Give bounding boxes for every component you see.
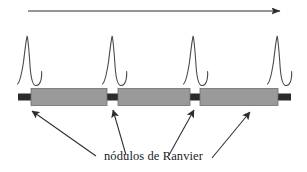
action-potential-spike-3 <box>184 36 208 86</box>
diagram-canvas <box>0 0 307 172</box>
nodes-of-ranvier-caption: nódulos de Ranvier <box>0 149 307 164</box>
myelin-sheath-3 <box>200 89 278 106</box>
myelin-sheath-1 <box>31 89 107 106</box>
action-potential-spike-2 <box>103 36 127 86</box>
action-potential-traces <box>18 36 292 86</box>
myelin-sheath-2 <box>118 89 190 106</box>
action-potential-spike-1 <box>18 36 42 86</box>
saltatory-conduction-diagram: nódulos de Ranvier <box>0 0 307 172</box>
action-potential-spike-4 <box>268 36 292 86</box>
myelin-sheaths <box>31 89 278 106</box>
